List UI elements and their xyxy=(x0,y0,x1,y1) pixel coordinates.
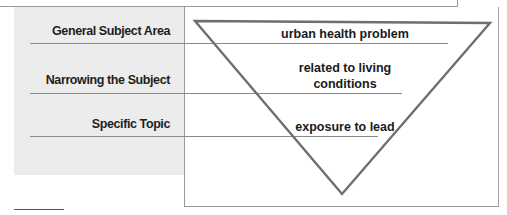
level-content-narrowing-line1: related to living xyxy=(260,60,430,76)
footnote-rule xyxy=(14,209,64,210)
level-content-narrowing: related to living conditions xyxy=(260,60,430,92)
level-content-specific: exposure to lead xyxy=(260,119,430,135)
level-content-general: urban health problem xyxy=(260,26,430,42)
inverted-triangle-icon xyxy=(0,0,507,215)
level-content-narrowing-line2: conditions xyxy=(260,76,430,92)
